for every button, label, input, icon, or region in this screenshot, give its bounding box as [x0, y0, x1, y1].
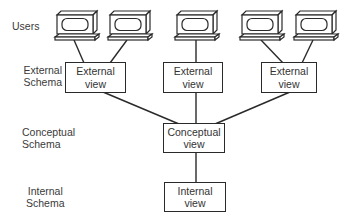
external-view-3-line1: External: [270, 65, 309, 78]
connector-user1-external1: [74, 40, 84, 63]
conceptual-view-line2: view: [183, 138, 204, 151]
external-view-2-line2: view: [182, 78, 203, 91]
connector-user4-external3: [261, 40, 283, 63]
external-connectors: [103, 92, 290, 124]
level-label-external-schema: External Schema: [14, 64, 62, 88]
computer-terminal-icon: [55, 11, 99, 40]
external-view-1-line2: view: [85, 78, 106, 91]
external-view-3: External view: [261, 62, 317, 93]
connector-external3-conceptual: [215, 92, 290, 124]
connector-user2-external1: [110, 40, 127, 63]
external-view-3-line2: view: [278, 78, 299, 91]
external-view-1: External view: [65, 62, 126, 93]
external-view-2-line1: External: [174, 65, 213, 78]
internal-view-line2: view: [184, 197, 205, 210]
external-schema-line1: External: [14, 64, 62, 76]
external-schema-line2: Schema: [14, 76, 62, 88]
computer-terminal-icon: [240, 11, 284, 40]
level-label-conceptual-schema: Conceptual Schema: [22, 126, 75, 150]
conceptual-view: Conceptual view: [163, 123, 225, 153]
internal-schema-line1: Internal: [26, 185, 65, 197]
computer-terminal-icon: [294, 11, 338, 40]
connector-external1-conceptual: [103, 92, 179, 124]
computer-terminal-icon: [175, 11, 219, 40]
users-label-text: Users: [12, 20, 39, 32]
internal-schema-line2: Schema: [26, 197, 65, 209]
conceptual-schema-line2: Schema: [22, 138, 75, 150]
internal-view-line1: Internal: [177, 185, 212, 198]
computer-terminal-icon: [108, 11, 152, 40]
conceptual-schema-line1: Conceptual: [22, 126, 75, 138]
user-connectors: [74, 40, 313, 63]
level-label-users: Users: [12, 20, 39, 32]
connector-user5-external3: [302, 40, 313, 63]
conceptual-view-line1: Conceptual: [167, 126, 220, 139]
internal-view: Internal view: [164, 182, 226, 212]
external-view-2: External view: [163, 62, 223, 93]
level-label-internal-schema: Internal Schema: [26, 185, 65, 209]
external-view-1-line1: External: [76, 65, 115, 78]
